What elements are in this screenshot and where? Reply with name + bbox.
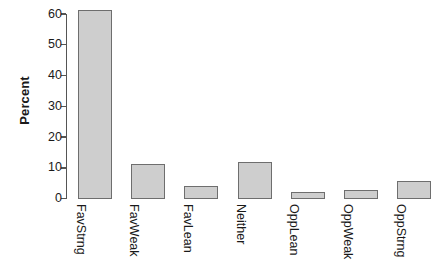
y-axis-tick-label-text: 0 bbox=[36, 192, 62, 205]
y-axis-title-text: Percent bbox=[17, 76, 32, 124]
x-axis-label-text: OppStrng bbox=[394, 204, 408, 258]
x-axis-label-text: FavStrng bbox=[74, 204, 88, 255]
y-axis-tick-label-text: 30 bbox=[36, 100, 62, 113]
y-axis-tick-label: 60 bbox=[34, 8, 62, 20]
bar-chart: Percent 0102030405060 FavStrngFavWeakFav… bbox=[0, 0, 441, 274]
bar bbox=[131, 164, 165, 199]
y-axis-tick-label: 20 bbox=[34, 131, 62, 143]
bar bbox=[78, 10, 112, 199]
y-axis-tick-label-text: 10 bbox=[36, 161, 62, 174]
plot-area bbox=[68, 0, 441, 199]
y-axis-tick-label-text: 60 bbox=[36, 8, 62, 21]
bar bbox=[291, 192, 325, 199]
y-axis-tick-label: 50 bbox=[34, 38, 62, 50]
x-axis-label-text: FavWeak bbox=[127, 204, 141, 257]
bar bbox=[397, 181, 431, 199]
y-axis-tick-label: 10 bbox=[34, 161, 62, 173]
y-axis-tick-label: 30 bbox=[34, 100, 62, 112]
y-axis-tick-label: 0 bbox=[34, 192, 62, 204]
x-axis-label-text: OppLean bbox=[287, 204, 301, 255]
bar bbox=[238, 162, 272, 199]
y-axis-tick-label-text: 20 bbox=[36, 131, 62, 144]
y-axis-tick-label-text: 40 bbox=[36, 69, 62, 82]
x-axis-label-text: Neither bbox=[234, 204, 248, 244]
x-axis-label-text: OppWeak bbox=[341, 204, 355, 259]
bar bbox=[344, 190, 378, 199]
x-axis-label-text: FavLean bbox=[181, 204, 195, 253]
y-axis-tick-label: 40 bbox=[34, 69, 62, 81]
y-axis-tick-label-text: 50 bbox=[36, 38, 62, 51]
bar bbox=[184, 186, 218, 199]
